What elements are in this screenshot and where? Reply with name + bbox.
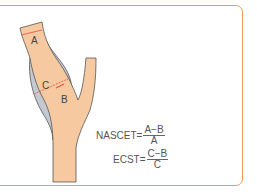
nascet-name: NASCET	[96, 130, 137, 141]
ecst-fraction: C−B C	[147, 149, 169, 170]
label-a: A	[31, 35, 38, 46]
nascet-formula: NASCET = A−B A	[96, 125, 165, 146]
ecst-eq: =	[140, 154, 146, 165]
nascet-eq: =	[137, 130, 143, 141]
nascet-fraction: A−B A	[143, 125, 164, 146]
ecst-denominator: C	[154, 160, 161, 170]
label-b: B	[61, 94, 68, 105]
ecst-name: ECST	[113, 154, 140, 165]
label-c: C	[42, 80, 49, 91]
common-carotid-vessel	[20, 22, 96, 182]
ecst-formula: ECST = C−B C	[113, 149, 168, 170]
nascet-denominator: A	[151, 136, 158, 146]
